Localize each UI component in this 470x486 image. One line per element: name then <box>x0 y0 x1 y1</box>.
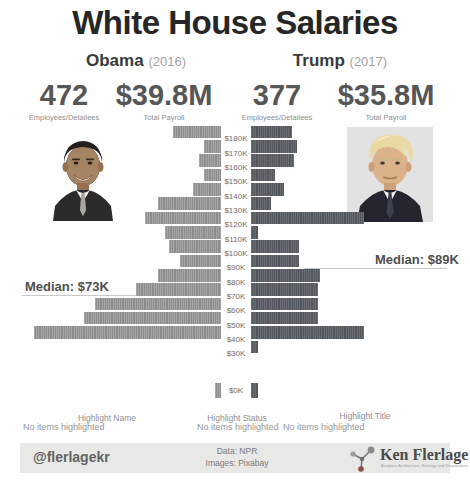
bar-obama-90k[interactable] <box>180 255 221 268</box>
bar-trump-100k[interactable] <box>251 240 299 253</box>
axis-label-30k: $30K <box>221 349 251 358</box>
bar-trump-180k[interactable] <box>251 126 292 139</box>
axis-label-40k: $40K <box>221 335 251 344</box>
bar-trump-0k[interactable] <box>251 383 258 398</box>
highlight-title-control[interactable]: Highlight Title <box>305 411 425 421</box>
brand-logo-icon <box>348 446 378 476</box>
bar-obama-70k[interactable] <box>136 283 221 296</box>
twitter-handle: @flerlagekr <box>33 449 110 465</box>
axis-label-90k: $90K <box>221 263 251 272</box>
bar-obama-160k[interactable] <box>199 154 221 167</box>
axis-label-80k: $80K <box>221 278 251 287</box>
axis-label-140k: $140K <box>221 192 251 201</box>
bar-obama-100k[interactable] <box>169 240 221 253</box>
bar-obama-120k[interactable] <box>145 212 221 225</box>
bar-trump-80k[interactable] <box>251 269 320 282</box>
brand-name: Ken Flerlage <box>380 446 468 464</box>
bar-trump-60k[interactable] <box>251 298 318 311</box>
highlight-title-status: No items highlighted <box>283 422 365 432</box>
highlight-status-status: No items highlighted <box>197 422 279 432</box>
bar-trump-120k[interactable] <box>251 212 364 225</box>
bar-trump-90k[interactable] <box>251 255 299 268</box>
bar-trump-150k[interactable] <box>251 169 275 182</box>
bar-trump-140k[interactable] <box>251 183 284 196</box>
trump-median-line <box>304 268 447 269</box>
bar-obama-80k[interactable] <box>158 269 221 282</box>
bar-obama-130k[interactable] <box>158 197 221 210</box>
bar-obama-50k[interactable] <box>84 312 221 325</box>
bar-trump-130k[interactable] <box>251 197 271 210</box>
bar-trump-110k[interactable] <box>251 226 258 239</box>
bar-trump-40k[interactable] <box>251 326 364 339</box>
bar-obama-150k[interactable] <box>204 169 221 182</box>
dashboard: White House Salaries Obama (2016) Trump … <box>0 0 470 486</box>
axis-label-170k: $170K <box>221 149 251 158</box>
bar-trump-70k[interactable] <box>251 283 318 296</box>
bar-obama-180k[interactable] <box>173 126 221 139</box>
axis-label-100k: $100K <box>221 249 251 258</box>
bar-obama-140k[interactable] <box>193 183 221 196</box>
bar-obama-110k[interactable] <box>165 226 221 239</box>
images-credit: Images: Pixabay <box>177 458 297 468</box>
bar-obama-170k[interactable] <box>204 140 221 153</box>
axis-label-160k: $160K <box>221 163 251 172</box>
bar-obama-40k[interactable] <box>34 326 221 339</box>
axis-label-50k: $50K <box>221 321 251 330</box>
brand-tagline: Analytics Architecture, Strategy and Vis… <box>381 463 468 468</box>
bar-trump-50k[interactable] <box>251 312 318 325</box>
axis-label-110k: $110K <box>221 235 251 244</box>
bar-trump-30k[interactable] <box>251 341 258 354</box>
axis-label-150k: $150K <box>221 177 251 186</box>
axis-label-180k: $180K <box>221 134 251 143</box>
obama-median-line <box>22 295 136 296</box>
data-credit: Data: NPR <box>177 446 297 456</box>
highlight-name-status: No items highlighted <box>23 422 105 432</box>
axis-label-70k: $70K <box>221 292 251 301</box>
axis-label-60k: $60K <box>221 306 251 315</box>
axis-label-120k: $120K <box>221 220 251 229</box>
axis-label-130k: $130K <box>221 206 251 215</box>
bar-trump-160k[interactable] <box>251 154 294 167</box>
bar-obama-60k[interactable] <box>95 298 221 311</box>
bar-trump-170k[interactable] <box>251 140 297 153</box>
axis-label-0k: $0K <box>221 386 251 395</box>
trump-median-label: Median: $89K <box>375 252 459 267</box>
obama-median-label: Median: $73K <box>25 279 109 294</box>
